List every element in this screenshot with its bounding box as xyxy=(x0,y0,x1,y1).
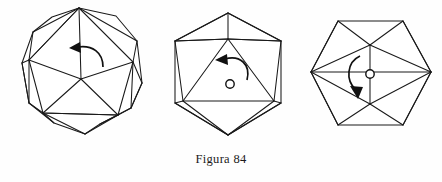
axis-point-icon xyxy=(226,80,234,88)
icosahedron-two-fold-view xyxy=(301,0,441,150)
axis-point-icon xyxy=(366,70,374,78)
icosahedron-five-fold-view xyxy=(6,0,156,150)
three-fold-polyhedron-svg xyxy=(156,0,301,150)
icosahedron-three-fold-view xyxy=(156,0,301,150)
figure-page: Figura 84 xyxy=(0,0,442,182)
five-fold-polyhedron-svg xyxy=(6,0,156,150)
figure-caption: Figura 84 xyxy=(0,152,442,167)
two-fold-polyhedron-svg xyxy=(301,0,441,150)
